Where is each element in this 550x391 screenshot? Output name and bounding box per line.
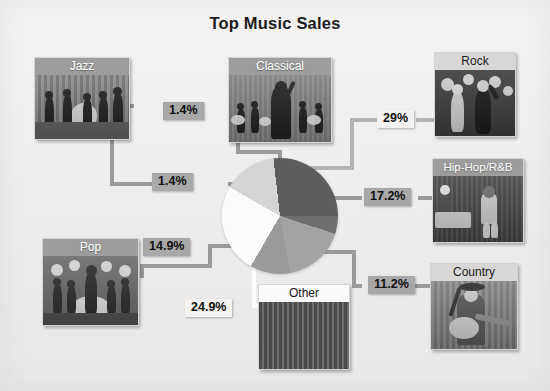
infographic-canvas: Top Music Sales Jazz	[0, 0, 550, 391]
connector-classical-h1	[236, 150, 282, 154]
panel-country[interactable]: Country	[430, 263, 518, 350]
connector-country-h2	[352, 284, 362, 288]
pie-chart	[222, 158, 338, 274]
panel-classical[interactable]: Classical	[228, 57, 332, 143]
panel-rock-caption: Rock	[435, 53, 515, 70]
panel-classical-caption: Classical	[229, 58, 331, 75]
panel-country-caption: Country	[431, 264, 517, 281]
callout-pop: 14.9%	[143, 238, 190, 256]
callout-hiphop: 17.2%	[364, 188, 411, 206]
connector-pop-v2	[140, 264, 144, 278]
connector-rock-h1	[310, 166, 354, 170]
connector-rock-h2	[350, 118, 380, 122]
panel-pop-caption: Pop	[43, 239, 138, 256]
panel-hiphop-caption: Hip-Hop/R&B	[433, 159, 523, 176]
connector-pop-h2	[140, 264, 212, 268]
callout-rock: 29%	[377, 110, 414, 128]
panel-other-caption: Other	[259, 285, 349, 302]
panel-hiphop[interactable]: Hip-Hop/R&B	[432, 158, 524, 243]
panel-jazz-caption: Jazz	[35, 58, 129, 75]
callout-country: 11.2%	[368, 276, 415, 294]
page-title: Top Music Sales	[0, 14, 550, 33]
panel-jazz[interactable]: Jazz	[34, 57, 130, 140]
panel-rock[interactable]: Rock	[434, 52, 516, 137]
connector-country-v1	[352, 250, 356, 284]
callout-jazz: 1.4%	[152, 173, 193, 191]
connector-rock-v1	[350, 118, 354, 170]
callout-other: 24.9%	[185, 299, 232, 317]
panel-pop[interactable]: Pop	[42, 238, 139, 326]
callout-classical: 1.4%	[163, 102, 204, 120]
panel-other[interactable]: Other	[258, 284, 350, 370]
